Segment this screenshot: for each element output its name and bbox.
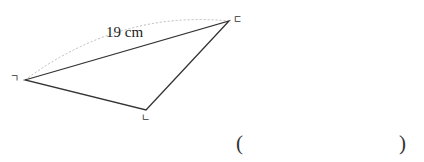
answer-blank[interactable]: ( ) [236,131,406,157]
vertex-label-a: ㄱ [10,74,19,84]
side-length-label: 19 cm [106,25,143,40]
close-paren: ) [399,131,406,156]
vertex-label-b: ㄴ [141,113,150,123]
vertex-label-c: ㄷ [233,15,242,25]
open-paren: ( [236,131,243,156]
